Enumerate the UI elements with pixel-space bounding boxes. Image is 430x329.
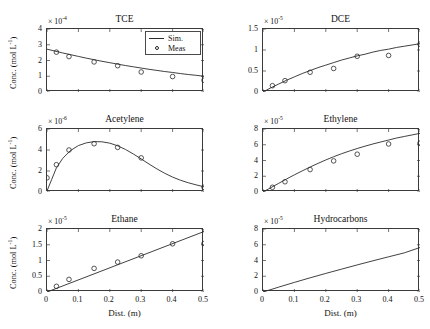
y-tick-label: 2 <box>228 171 258 180</box>
y-axis-label-close: ) <box>9 37 18 40</box>
subplot-title: Ethylene <box>262 114 419 125</box>
series-marker-meas <box>67 54 72 59</box>
exponent-base: × 10 <box>48 17 62 26</box>
series-marker-meas <box>139 70 144 75</box>
y-axis-label: Conc. (mol L-1) <box>6 237 18 289</box>
plot-canvas <box>263 29 420 92</box>
y-tick-label: 2 <box>228 271 258 280</box>
series-line-sim <box>47 142 204 191</box>
y-axis-label-base: Conc. (mol L <box>9 145 18 189</box>
subplot-title: DCE <box>262 14 419 25</box>
x-tick-label: 0.4 <box>383 295 393 304</box>
y-tick-label: 2 <box>12 224 42 233</box>
x-tick-label: 0.2 <box>104 295 114 304</box>
y-tick-label: 0 <box>228 187 258 196</box>
x-axis-label: Dist. (m) <box>262 308 419 318</box>
legend-circle-icon <box>148 46 165 50</box>
series-line-sim <box>47 232 204 292</box>
x-tick-label: 0.2 <box>320 295 330 304</box>
x-tick-label: 0.5 <box>198 295 208 304</box>
subplot-tce: TCE× 10-401234Conc. (mol L-1)Sim.Meas <box>0 12 203 120</box>
plot-area <box>262 28 419 91</box>
exponent-base: × 10 <box>264 17 278 26</box>
y-axis-label-base: Conc. (mol L <box>9 45 18 89</box>
y-tick-label: 0.5 <box>228 66 258 75</box>
x-tick-label: 0.1 <box>72 295 82 304</box>
axis-exponent-label: × 10-5 <box>48 214 67 226</box>
x-tick-label: 0 <box>260 295 264 304</box>
y-axis-label-exponent: -1 <box>7 140 13 145</box>
exponent-power: -4 <box>62 15 67 21</box>
x-tick-label: 0.3 <box>135 295 145 304</box>
x-tick-label: 0 <box>44 295 48 304</box>
subplot-dce: DCE× 10-500.511.5 <box>216 12 419 120</box>
plot-canvas <box>263 229 420 292</box>
legend: Sim.Meas <box>145 31 201 55</box>
x-axis-label: Dist. (m) <box>46 308 203 318</box>
subplot-acetylene: Acetylene× 10-60246Conc. (mol L-1) <box>0 112 203 220</box>
subplot-title: TCE <box>46 14 203 25</box>
series-marker-meas <box>202 185 204 190</box>
series-marker-meas <box>355 152 360 157</box>
axis-exponent-label: × 10-5 <box>264 114 283 126</box>
y-tick-label: 8 <box>228 124 258 133</box>
axis-exponent-label: × 10-6 <box>48 114 67 126</box>
legend-label-sim: Sim. <box>165 34 183 43</box>
series-marker-meas <box>115 260 120 265</box>
y-tick-label: 0 <box>228 87 258 96</box>
series-marker-meas <box>67 277 72 282</box>
series-marker-meas <box>92 60 97 65</box>
series-marker-meas <box>386 142 391 147</box>
y-axis-label-close: ) <box>9 137 18 140</box>
y-axis-label-base: Conc. (mol L <box>9 245 18 289</box>
exponent-power: -5 <box>278 215 283 221</box>
y-tick-label: 1.5 <box>228 24 258 33</box>
plot-canvas <box>263 129 420 192</box>
series-line-sim <box>263 44 420 92</box>
exponent-base: × 10 <box>264 117 278 126</box>
x-tick-label: 0.5 <box>414 295 424 304</box>
y-tick-label: 0 <box>228 287 258 296</box>
series-marker-meas <box>47 176 49 181</box>
exponent-base: × 10 <box>48 117 62 126</box>
x-tick-label: 0.4 <box>167 295 177 304</box>
y-axis-label-exponent: -1 <box>7 40 13 45</box>
exponent-base: × 10 <box>48 217 62 226</box>
series-marker-meas <box>331 66 336 71</box>
y-tick-label: 6 <box>228 139 258 148</box>
series-marker-meas <box>386 53 391 58</box>
subplot-hydrocarbons: Hydrocarbons× 10-50246800.10.20.30.40.5D… <box>216 212 419 320</box>
subplot-ethylene: Ethylene× 10-502468 <box>216 112 419 220</box>
plot-area <box>262 228 419 291</box>
legend-label-meas: Meas <box>165 44 185 53</box>
y-tick-label: 6 <box>12 124 42 133</box>
y-axis-label: Conc. (mol L-1) <box>6 137 18 189</box>
legend-entry-sim: Sim. <box>148 33 197 43</box>
axis-exponent-label: × 10-5 <box>264 14 283 26</box>
plot-area <box>46 228 203 291</box>
series-marker-meas <box>92 141 97 146</box>
exponent-power: -5 <box>62 215 67 221</box>
legend-line-icon <box>148 38 165 39</box>
exponent-power: -5 <box>278 15 283 21</box>
x-tick-label: 0.3 <box>351 295 361 304</box>
exponent-power: -5 <box>278 115 283 121</box>
plot-area <box>46 128 203 191</box>
y-tick-label: 4 <box>12 24 42 33</box>
figure-root: TCE× 10-401234Conc. (mol L-1)Sim.MeasDCE… <box>0 0 430 329</box>
legend-entry-meas: Meas <box>148 43 197 53</box>
y-axis-label-exponent: -1 <box>7 240 13 245</box>
y-axis-label-close: ) <box>9 237 18 240</box>
subplot-title: Acetylene <box>46 114 203 125</box>
subplot-title: Ethane <box>46 214 203 225</box>
plot-canvas <box>47 129 204 192</box>
y-tick-label: 8 <box>228 224 258 233</box>
exponent-base: × 10 <box>264 217 278 226</box>
series-marker-meas <box>331 159 336 164</box>
subplot-title: Hydrocarbons <box>262 214 419 225</box>
series-marker-meas <box>170 74 175 79</box>
subplot-ethane: Ethane× 10-500.511.5200.10.20.30.40.5Dis… <box>0 212 203 320</box>
exponent-power: -6 <box>62 115 67 121</box>
series-marker-meas <box>92 266 97 271</box>
series-marker-meas <box>308 167 313 172</box>
